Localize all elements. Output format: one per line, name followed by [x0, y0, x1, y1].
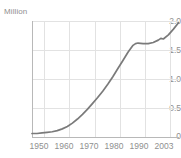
line-chart: Million 2.0 1.5 1.0 0.5 0 1950 1960 1970… — [0, 0, 181, 158]
plot-area — [0, 0, 181, 158]
grid-lines — [32, 21, 179, 137]
data-line-series — [32, 23, 179, 134]
